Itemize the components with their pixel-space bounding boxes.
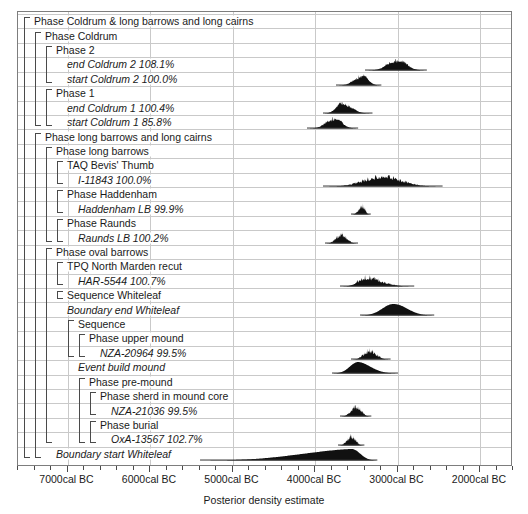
model-group-row: Phase long barrows [18,144,511,158]
group-bracket [57,190,63,212]
axis-tick-minor [34,466,35,470]
model-distribution-row: Raunds LB 100.2% [18,230,511,244]
plot-frame: Phase Coldrum & long barrows and long ca… [17,11,512,466]
group-bracket [46,46,52,83]
group-bracket [79,334,85,356]
row-label: Phase 2 [54,45,97,56]
model-group-row: Sequence Whiteleaf [18,288,511,302]
posterior-density-chart: Phase Coldrum & long barrows and long ca… [0,0,528,514]
model-group-row: Phase 2 [18,43,511,57]
row-label: Phase sherd in mound core [98,391,230,402]
group-bracket [35,32,41,127]
row-label: Phase long barrows and long cairns [43,131,214,142]
axis-tick-minor [281,466,282,470]
group-bracket [46,147,52,242]
row-label: Boundary end Whiteleaf [65,304,181,315]
row-label: Sequence Whiteleaf [65,290,163,301]
axis-tick-minor [446,466,447,470]
model-group-row: TPQ North Marden recut [18,259,511,273]
model-distribution-row: Boundary start Whiteleaf [18,447,511,461]
model-group-row: Phase upper mound [18,331,511,345]
row-label: TPQ North Marden recut [65,261,184,272]
row-label: NZA-20964 99.5% [98,347,188,358]
row-label: NZA-21036 99.5% [109,405,199,416]
model-distribution-row: Haddenham LB 99.9% [18,201,511,215]
group-bracket [24,17,30,458]
row-label: OxA-13567 102.7% [109,434,205,445]
axis-tick-minor [199,466,200,470]
row-label: start Coldrum 1 85.8% [65,117,173,128]
row-label: Phase pre-mound [87,376,174,387]
axis-tick-label: 3000cal BC [369,473,423,485]
group-bracket [46,89,52,126]
x-axis-tick-labels: 7000cal BC6000cal BC5000cal BC4000cal BC… [0,473,528,487]
axis-tick-major [479,466,480,472]
model-distribution-row: I-11843 100.0% [18,173,511,187]
row-label: TAQ Bevis' Thumb [65,160,156,171]
model-distribution-row: Event build mound [18,360,511,374]
axis-tick-minor [248,466,249,470]
row-label: Sequence [76,319,127,330]
axis-tick-label: 4000cal BC [287,473,341,485]
row-label: start Coldrum 2 100.0% [65,73,179,84]
group-bracket [90,421,96,443]
axis-tick-minor [380,466,381,470]
axis-tick-label: 6000cal BC [122,473,176,485]
model-group-row: Phase pre-mound [18,375,511,389]
model-distribution-row: Boundary end Whiteleaf [18,302,511,316]
axis-tick-minor [413,466,414,470]
group-bracket [57,291,63,299]
axis-tick-minor [17,466,18,470]
model-distribution-row: HAR-5544 100.7% [18,274,511,288]
axis-tick-minor [100,466,101,470]
axis-tick-major [232,466,233,472]
model-distribution-row: end Coldrum 2 108.1% [18,57,511,71]
axis-tick-minor [182,466,183,470]
axis-tick-major [67,466,68,472]
axis-tick-minor [364,466,365,470]
model-distribution-row: start Coldrum 2 100.0% [18,72,511,86]
row-label: Phase upper mound [87,333,186,344]
row-label: Event build mound [76,362,167,373]
axis-tick-minor [265,466,266,470]
row-label: Phase Coldrum & long barrows and long ca… [32,16,255,27]
row-label: Haddenham LB 99.9% [76,203,186,214]
row-label: Phase Raunds [65,218,138,229]
axis-tick-minor [298,466,299,470]
model-group-row: Phase Coldrum [18,28,511,42]
model-group-row: Phase Coldrum & long barrows and long ca… [18,14,511,28]
axis-tick-minor [133,466,134,470]
row-label: Boundary start Whiteleaf [54,448,173,459]
model-group-row: Phase Raunds [18,216,511,230]
axis-tick-label: 2000cal BC [452,473,506,485]
row-label: Phase long barrows [54,145,151,156]
x-axis-title: Posterior density estimate [0,494,528,506]
row-label: Phase Coldrum [43,30,119,41]
row-label: Phase oval barrows [54,246,150,257]
axis-tick-minor [50,466,51,470]
row-label: Phase Haddenham [65,189,159,200]
axis-tick-minor [83,466,84,470]
group-bracket [57,161,63,183]
row-label: end Coldrum 2 108.1% [65,59,176,70]
axis-tick-minor [215,466,216,470]
group-bracket [35,133,41,458]
model-group-row: Phase oval barrows [18,245,511,259]
axis-tick-major [397,466,398,472]
axis-tick-minor [116,466,117,470]
axis-tick-major [314,466,315,472]
x-axis-ticks [17,466,512,472]
axis-tick-label: 5000cal BC [204,473,258,485]
model-distribution-row: NZA-20964 99.5% [18,346,511,360]
model-group-row: Phase 1 [18,86,511,100]
model-group-row: Phase Haddenham [18,187,511,201]
group-bracket [79,378,85,444]
row-label: end Coldrum 1 100.4% [65,102,176,113]
model-distribution-row: start Coldrum 1 85.8% [18,115,511,129]
group-bracket [57,219,63,241]
model-rows: Phase Coldrum & long barrows and long ca… [18,12,511,465]
axis-tick-minor [430,466,431,470]
group-bracket [57,262,63,284]
group-bracket [68,320,74,357]
model-group-row: Sequence [18,317,511,331]
